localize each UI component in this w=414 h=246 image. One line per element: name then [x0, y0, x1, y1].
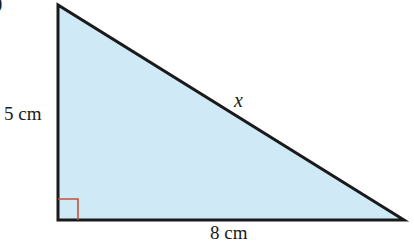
right-triangle: [58, 5, 404, 220]
vertical-side-label: 5 cm: [4, 103, 41, 125]
hypotenuse-label: x: [234, 89, 243, 112]
horizontal-side-label: 8 cm: [210, 222, 247, 244]
triangle-diagram: [0, 0, 414, 246]
part-label: ): [0, 0, 2, 14]
